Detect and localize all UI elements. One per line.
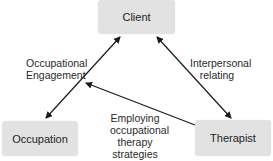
label-line: relating xyxy=(190,69,244,81)
node-therapist-label: Therapist xyxy=(210,132,256,144)
node-therapist: Therapist xyxy=(195,120,271,156)
label-line: therapy xyxy=(110,136,160,148)
edge-label-interpersonal-relating: Interpersonal relating xyxy=(190,57,244,81)
label-line: Interpersonal xyxy=(190,57,244,69)
label-line: occupational xyxy=(110,124,160,136)
node-occupation: Occupation xyxy=(2,121,78,156)
edge-label-employing-strategies: Employing occupational therapy strategie… xyxy=(110,112,160,160)
node-client: Client xyxy=(98,0,175,34)
edge-label-occupational-engagement: Occupational Engagement xyxy=(26,57,80,81)
node-occupation-label: Occupation xyxy=(12,133,68,145)
label-line: Occupational xyxy=(26,57,80,69)
label-line: strategies xyxy=(110,148,160,160)
label-line: Engagement xyxy=(26,69,80,81)
node-client-label: Client xyxy=(122,11,150,23)
label-line: Employing xyxy=(110,112,160,124)
